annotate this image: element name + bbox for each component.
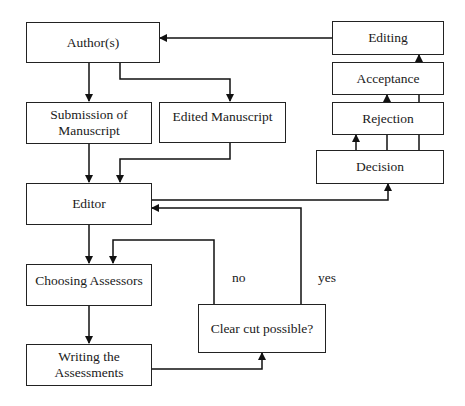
node-writing-label-2: Assessments [54, 365, 123, 381]
node-editing-label: Editing [368, 30, 408, 46]
edge-label-yes: yes [318, 270, 336, 286]
node-edited-manuscript: Edited Manuscript [159, 102, 286, 143]
node-editor: Editor [26, 183, 152, 225]
node-choosing-assessors-label: Choosing Assessors [35, 273, 143, 289]
node-decision-label: Decision [356, 159, 404, 175]
node-writing-label-1: Writing the [54, 349, 123, 365]
node-choosing-assessors: Choosing Assessors [26, 264, 152, 306]
node-submission-label-2: Manuscript [50, 123, 128, 139]
node-acceptance-label: Acceptance [357, 71, 420, 87]
node-decision: Decision [316, 150, 444, 184]
edge-label-no: no [232, 270, 246, 286]
node-acceptance: Acceptance [332, 62, 444, 95]
node-editing: Editing [332, 21, 444, 55]
node-submission-label-1: Submission of [50, 107, 128, 123]
node-writing-assessments: Writing the Assessments [26, 344, 152, 386]
node-clear-cut-label: Clear cut possible? [211, 321, 314, 337]
node-editor-label: Editor [72, 196, 106, 212]
node-authors-label: Author(s) [67, 35, 120, 51]
node-submission: Submission of Manuscript [26, 102, 152, 144]
node-rejection-label: Rejection [362, 111, 414, 127]
node-edited-manuscript-label: Edited Manuscript [172, 109, 272, 125]
node-authors: Author(s) [26, 22, 160, 63]
node-rejection: Rejection [332, 102, 444, 135]
node-clear-cut: Clear cut possible? [198, 304, 326, 353]
